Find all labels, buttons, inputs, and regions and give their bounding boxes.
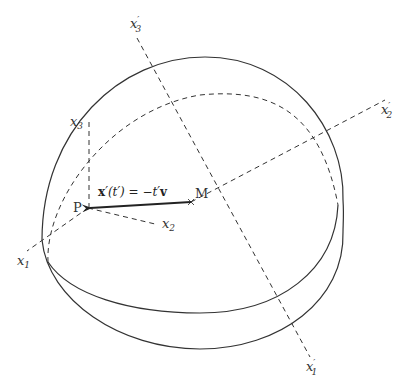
label-axis-x3: x3	[70, 114, 83, 131]
label-axis-x1: x1	[17, 253, 30, 270]
label-axis-x2-prime: x′2	[381, 101, 392, 120]
equator-front-arc	[48, 205, 338, 313]
label-point-m: M	[195, 186, 208, 201]
sphere-diagram: M P x′(t′) = −t′v x′3 x′2 x′1 x3 x2 x1	[0, 0, 410, 387]
label-point-p: P	[73, 200, 82, 215]
axis-x2-prime	[191, 100, 385, 202]
vector-label: x′(t′) = −t′v	[98, 185, 168, 199]
label-axis-x3-prime: x′3	[130, 15, 141, 34]
label-axis-x1-prime: x′1	[306, 358, 317, 377]
label-axis-x2: x2	[162, 216, 175, 233]
axis-x2	[88, 208, 155, 224]
vector-arrow	[90, 202, 191, 208]
sphere-outline-lower-outer	[42, 232, 343, 349]
sphere-outline-upper	[42, 57, 343, 240]
equator-back-arc	[48, 94, 338, 262]
